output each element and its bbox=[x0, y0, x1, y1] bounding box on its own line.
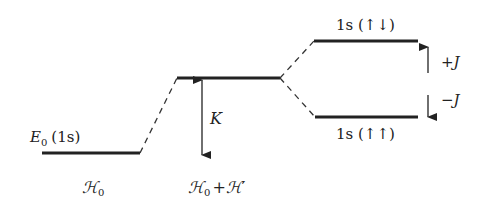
energy-level-diagram: E0(1s) K 1s (↑↓) 1s (↑↑) +J −J ℋ0 ℋ0+ℋ′ bbox=[0, 0, 492, 210]
exchange-up-label: +J bbox=[441, 53, 461, 71]
connector-to-singlet bbox=[280, 41, 314, 78]
triplet-level-label: 1s (↑↑) bbox=[336, 125, 395, 143]
connector-ground-to-perturbed bbox=[140, 78, 177, 153]
exchange-down-label: −J bbox=[441, 91, 461, 109]
connector-to-triplet bbox=[280, 78, 315, 117]
unperturbed-hamiltonian-label: ℋ0 bbox=[82, 178, 104, 198]
perturbed-hamiltonian-label: ℋ0+ℋ′ bbox=[188, 178, 246, 198]
ground-level-label: E0(1s) bbox=[29, 128, 80, 148]
coulomb-k-label: K bbox=[209, 109, 223, 128]
singlet-level-label: 1s (↑↓) bbox=[336, 16, 395, 34]
